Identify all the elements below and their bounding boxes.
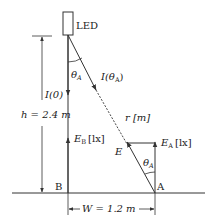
intensity-angle-label: I(θA) (100, 71, 124, 84)
point-B-label: B (55, 181, 62, 192)
led-label: LED (76, 20, 98, 31)
theta-top-label: θA (71, 69, 82, 82)
theta-bottom-label: θA (143, 157, 154, 170)
width-label: W = 1.2 m (82, 203, 136, 214)
illuminance-diagram: LED θA I(θA) I(0) h = 2.4 m r [m] EB[lx]… (0, 0, 210, 224)
intensity-zero-label: I(0) (44, 89, 63, 100)
height-label: h = 2.4 m (21, 109, 71, 120)
point-A-label: A (156, 181, 165, 192)
illuminance-A-label: EA[lx] (160, 137, 192, 150)
distance-label: r [m] (125, 112, 150, 123)
illuminance-E-label: E (114, 146, 123, 157)
illuminance-B-label: EB[lx] (73, 133, 105, 146)
led-box (63, 12, 73, 35)
intensity-angle-arrow (68, 35, 96, 90)
theta-bottom-arc (145, 172, 155, 174)
